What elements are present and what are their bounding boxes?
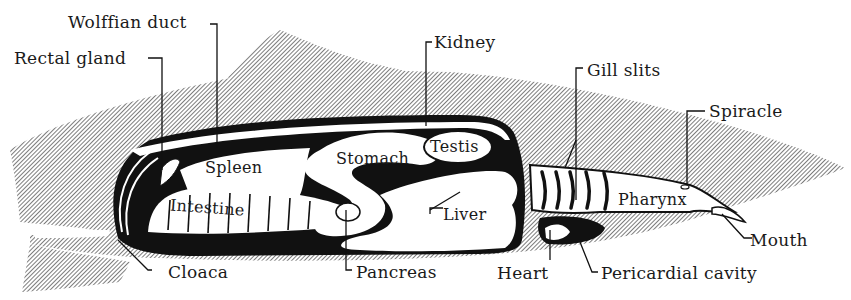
label-spiracle: Spiracle <box>709 103 783 120</box>
label-liver: Liver <box>443 207 486 223</box>
diagram-artwork <box>0 0 851 300</box>
label-spleen: Spleen <box>205 160 262 176</box>
shark-anatomy-diagram: Wolffian duct Rectal gland Kidney Gill s… <box>0 0 851 300</box>
label-heart: Heart <box>497 265 548 282</box>
label-gill-slits: Gill slits <box>587 62 660 79</box>
label-pharynx: Pharynx <box>618 192 687 208</box>
label-mouth: Mouth <box>750 232 808 249</box>
label-pancreas: Pancreas <box>356 264 437 281</box>
label-cloaca: Cloaca <box>168 264 228 281</box>
label-testis: Testis <box>430 139 479 155</box>
label-stomach: Stomach <box>336 151 409 167</box>
label-rectal-gland: Rectal gland <box>14 50 126 67</box>
label-kidney: Kidney <box>434 34 495 51</box>
label-pericardial-cavity: Pericardial cavity <box>601 265 757 282</box>
label-wolffian-duct: Wolffian duct <box>68 14 187 31</box>
